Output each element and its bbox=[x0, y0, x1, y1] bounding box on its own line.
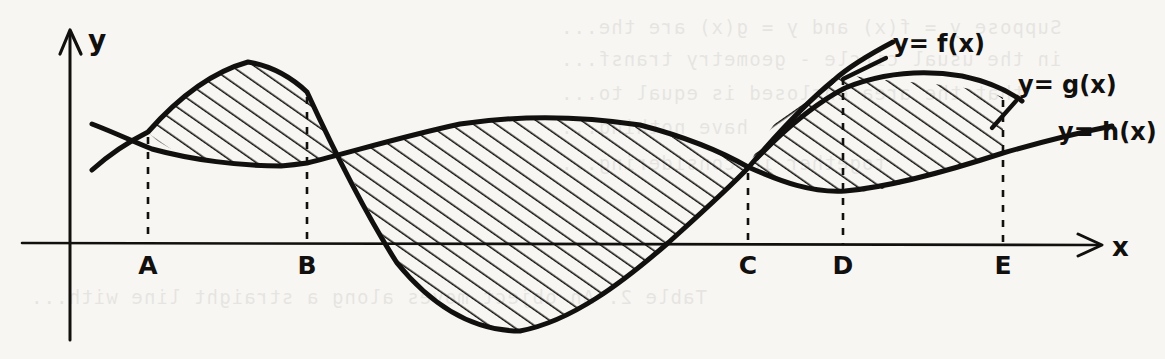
tick-label-D: D bbox=[833, 251, 854, 280]
tick-label-B: B bbox=[297, 251, 316, 280]
figure-container: Suppose y = f(x) and y = g(x) are the...… bbox=[0, 0, 1165, 359]
y-axis-label: y bbox=[88, 24, 106, 57]
hatched-regions bbox=[130, 50, 1015, 345]
x-axis-line bbox=[22, 243, 1098, 245]
curve-label-f: y= f(x) bbox=[893, 30, 985, 58]
curve-label-g: y= g(x) bbox=[1018, 71, 1117, 99]
figure-svg: y x A B C D E y= f(x) y= g(x) y= h(x) bbox=[0, 0, 1165, 359]
x-axis-label: x bbox=[1112, 232, 1129, 262]
tick-label-E: E bbox=[994, 251, 1011, 280]
curve-label-h: y= h(x) bbox=[1058, 118, 1157, 146]
tick-label-A: A bbox=[138, 251, 158, 280]
tick-label-C: C bbox=[739, 251, 757, 280]
